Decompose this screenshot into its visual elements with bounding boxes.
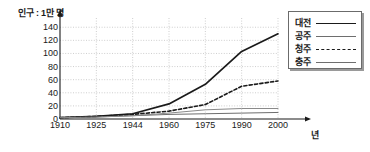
legend-line-swatch xyxy=(316,19,356,26)
legend: 대전공주청주충주 xyxy=(288,11,362,69)
legend-item-label: 충주 xyxy=(295,55,311,68)
legend-item[interactable]: 충주 xyxy=(295,55,356,68)
legend-line-swatch xyxy=(316,45,356,52)
population-line-chart: 인구 : 1만 명 년 020406080100120140 191019251… xyxy=(0,0,370,152)
legend-item-label: 청주 xyxy=(295,42,311,55)
legend-item[interactable]: 대전 xyxy=(295,16,356,29)
legend-item-label: 대전 xyxy=(295,16,311,29)
legend-item[interactable]: 공주 xyxy=(295,29,356,42)
legend-line-swatch xyxy=(316,58,356,65)
legend-item[interactable]: 청주 xyxy=(295,42,356,55)
legend-line-swatch xyxy=(316,32,356,39)
legend-item-label: 공주 xyxy=(295,29,311,42)
